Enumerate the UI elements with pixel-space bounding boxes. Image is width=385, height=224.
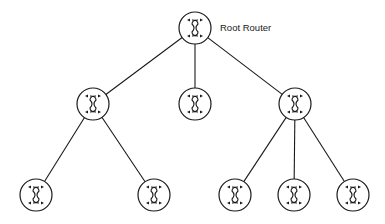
- router-circle: [179, 88, 211, 120]
- link-root-l1-left: [106, 38, 182, 95]
- router-circle: [278, 179, 310, 211]
- router-circle: [77, 88, 109, 120]
- router-node-l1-left: [77, 88, 109, 120]
- link-l1-right-l2-d: [294, 120, 295, 179]
- router-node-l2-b: [138, 179, 170, 211]
- router-node-root: [179, 12, 211, 44]
- router-circle: [138, 179, 170, 211]
- router-node-l1-right: [279, 88, 311, 120]
- router-circle: [179, 12, 211, 44]
- link-root-l1-right: [208, 38, 283, 95]
- root-router-label: Root Router: [220, 22, 271, 33]
- router-node-l1-mid: [179, 88, 211, 120]
- link-l1-right-l2-e: [304, 117, 345, 181]
- router-node-l2-c: [219, 179, 251, 211]
- router-circle: [337, 179, 369, 211]
- link-l1-left-l2-b: [102, 117, 145, 181]
- router-circle: [279, 88, 311, 120]
- router-node-l2-e: [337, 179, 369, 211]
- router-circle: [219, 179, 251, 211]
- link-l1-left-l2-a: [44, 118, 84, 182]
- router-node-l2-a: [20, 179, 52, 211]
- link-l1-right-l2-c: [244, 117, 286, 181]
- nodes: [20, 12, 369, 211]
- router-node-l2-d: [278, 179, 310, 211]
- router-tree-diagram: Root Router: [0, 0, 385, 224]
- router-circle: [20, 179, 52, 211]
